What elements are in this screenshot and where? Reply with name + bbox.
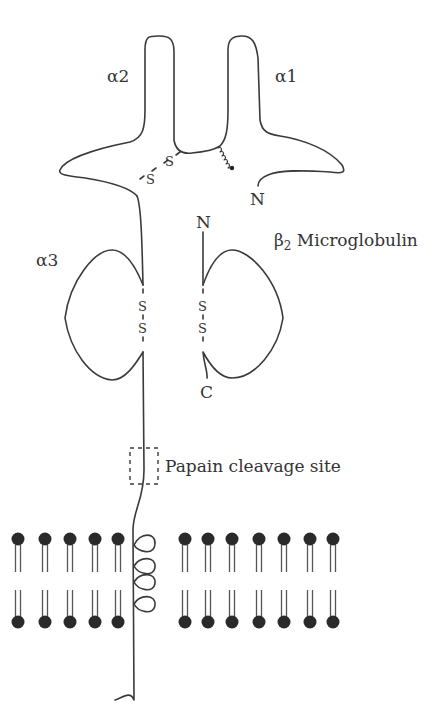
alpha3-domain-loop bbox=[65, 250, 143, 380]
alpha3-label: α3 bbox=[36, 250, 58, 270]
lipid-head-upper bbox=[304, 533, 317, 546]
lipid-head-upper bbox=[278, 533, 291, 546]
lipid-head-lower bbox=[202, 616, 215, 629]
lipid-head-upper bbox=[12, 533, 25, 546]
lipid-head-upper bbox=[64, 533, 77, 546]
lipid-head-lower bbox=[39, 616, 52, 629]
alpha-chain-stem bbox=[137, 196, 143, 285]
glycan-coil bbox=[218, 147, 232, 168]
mhc-class-i-diagram: S S S S Papain cleavage site S S α2 α1 α… bbox=[0, 0, 436, 710]
beta2m-n-terminus: N bbox=[196, 212, 211, 232]
lipid-head-lower bbox=[179, 616, 192, 629]
lipid-head-upper bbox=[39, 533, 52, 546]
lipid-head-upper bbox=[253, 533, 266, 546]
alpha3-s-2: S bbox=[138, 321, 147, 336]
beta2m-label: β2 Microglobulin bbox=[274, 230, 418, 253]
lipid-head-lower bbox=[327, 616, 340, 629]
beta2m-domain-loop bbox=[203, 250, 283, 378]
transmembrane-stem bbox=[115, 352, 144, 700]
lipid-head-lower bbox=[278, 616, 291, 629]
lipid-head-lower bbox=[112, 616, 125, 629]
transmembrane-helix bbox=[134, 535, 155, 612]
glycan-end-dot bbox=[230, 166, 234, 170]
lipid-head-upper bbox=[226, 533, 239, 546]
alpha2-label: α2 bbox=[107, 66, 129, 86]
lipid-head-lower bbox=[12, 616, 25, 629]
beta2m-c-terminus: C bbox=[200, 382, 213, 402]
alpha1-label: α1 bbox=[275, 66, 297, 86]
lipid-head-lower bbox=[253, 616, 266, 629]
papain-cleavage-label: Papain cleavage site bbox=[165, 456, 341, 476]
beta2m-s-2: S bbox=[198, 321, 207, 336]
lipid-head-upper bbox=[89, 533, 102, 546]
lipid-head-upper bbox=[202, 533, 215, 546]
lipid-head-lower bbox=[304, 616, 317, 629]
lipid-head-lower bbox=[226, 616, 239, 629]
lipid-head-upper bbox=[327, 533, 340, 546]
alpha2-s-2: S bbox=[146, 172, 155, 187]
alpha1-n-terminus: N bbox=[250, 189, 265, 209]
alpha2-s-1: S bbox=[165, 154, 174, 169]
beta2m-s-1: S bbox=[198, 299, 207, 314]
lipid-head-upper bbox=[112, 533, 125, 546]
alpha3-s-1: S bbox=[138, 299, 147, 314]
lipid-head-upper bbox=[179, 533, 192, 546]
lipid-head-lower bbox=[64, 616, 77, 629]
lipid-head-lower bbox=[89, 616, 102, 629]
alpha1-alpha2-chain bbox=[60, 36, 344, 196]
lipid-bilayer bbox=[12, 533, 340, 629]
